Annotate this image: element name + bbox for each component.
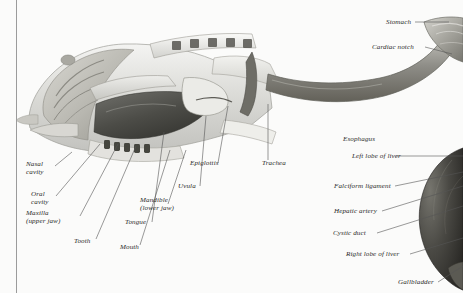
label-epiglottis: Epiglottis	[190, 159, 219, 167]
label-oral-cavity: Oral cavity	[31, 190, 49, 207]
label-uvula: Uvula	[178, 182, 196, 190]
label-esophagus: Esophagus	[343, 135, 375, 143]
page-border-rule	[16, 0, 17, 293]
label-gallbladder: Gallbladder	[398, 278, 434, 286]
label-hepatic-artery: Hepatic artery	[334, 207, 377, 215]
label-tongue: Tongue	[125, 218, 146, 226]
label-cardiac-notch: Cardiac notch	[372, 43, 414, 51]
label-left-lobe-of-liver: Left lobe of liver	[352, 152, 401, 160]
label-right-lobe-of-liver: Right lobe of liver	[346, 250, 399, 258]
label-stomach: Stomach	[386, 18, 411, 26]
label-mandible: Mandible (lower jaw)	[140, 196, 174, 213]
label-mouth: Mouth	[120, 243, 139, 251]
label-tooth: Tooth	[74, 237, 90, 245]
label-cystic-duct: Cystic duct	[333, 229, 366, 237]
label-nasal-cavity: Nasal cavity	[26, 160, 44, 177]
label-falciform-ligament: Falciform ligament	[334, 182, 391, 190]
label-maxilla: Maxilla (upper jaw)	[26, 209, 60, 226]
label-trachea: Trachea	[262, 159, 286, 167]
figure-canvas: Nasal cavity Oral cavity Maxilla (upper …	[0, 0, 463, 293]
